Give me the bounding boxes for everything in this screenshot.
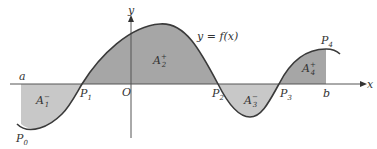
origin-label: O [122,86,131,99]
function-label: y = f(x) [196,30,238,43]
x-axis-arrow-icon [360,81,367,87]
point-p4-label: P4 [320,34,333,49]
point-p0-label: P0 [15,132,28,147]
diagram-canvas: a b O y x y = f(x) P0 P1 P2 P3 P4 A−1 A+… [0,0,377,149]
area-a1-label: A−1 [35,93,50,109]
area-a4-label: A+4 [301,61,316,77]
point-p1-label: P1 [79,87,92,102]
area-a2-label: A+2 [152,53,167,69]
point-p3-label: P3 [279,87,292,102]
x-axis-label: x [367,78,374,91]
signed-area-diagram: a b O y x y = f(x) P0 P1 P2 P3 P4 A−1 A+… [0,0,377,149]
area-a3-label: A−3 [243,93,258,109]
right-bound-label: b [323,87,330,100]
y-axis-label: y [127,4,135,17]
left-bound-label: a [19,70,26,83]
